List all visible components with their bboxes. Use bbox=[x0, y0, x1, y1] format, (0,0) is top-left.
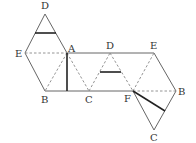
label-e-left: E bbox=[15, 48, 22, 59]
net-diagram: D E A B C D E F B C bbox=[0, 0, 196, 143]
label-b-left: B bbox=[41, 94, 48, 105]
thick-segments bbox=[35, 33, 165, 111]
segment-f-diagonal bbox=[133, 91, 165, 111]
label-f: F bbox=[124, 93, 131, 104]
net-svg: D E A B C D E F B C bbox=[0, 0, 196, 143]
label-b-right: B bbox=[178, 86, 185, 97]
label-a: A bbox=[67, 43, 76, 54]
label-e-right: E bbox=[150, 40, 157, 51]
label-c-bottom: C bbox=[150, 132, 158, 143]
label-d-top: D bbox=[41, 0, 49, 11]
label-d-mid: D bbox=[106, 40, 114, 51]
label-c-mid: C bbox=[85, 94, 93, 105]
